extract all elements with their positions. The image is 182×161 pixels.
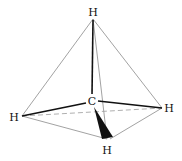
bond-c-top bbox=[92, 20, 93, 95]
atom-label-hydrogen-top: H bbox=[88, 6, 98, 19]
edge-top-left bbox=[22, 19, 93, 116]
atom-label-hydrogen-right: H bbox=[164, 102, 174, 115]
edge-top-right bbox=[93, 19, 162, 108]
atom-label-hydrogen-bottom: H bbox=[102, 144, 112, 157]
edge-left-bottom bbox=[22, 116, 107, 139]
edge-right-bottom bbox=[110, 108, 162, 139]
atom-label-carbon: C bbox=[88, 95, 96, 108]
bond-c-right bbox=[98, 101, 162, 108]
atom-label-hydrogen-left: H bbox=[9, 111, 19, 124]
methane-tetrahedron-diagram: C H H H H bbox=[0, 0, 182, 161]
